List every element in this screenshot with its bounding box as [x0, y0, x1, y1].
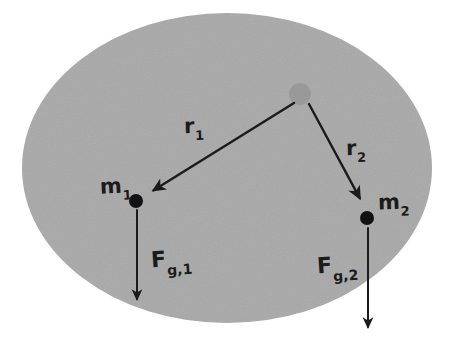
label-r2: r2 [346, 138, 367, 162]
gravity-diagram-svg [0, 0, 455, 346]
label-m1-sub: 1 [122, 187, 132, 202]
label-fg2: Fg,2 [316, 253, 358, 280]
body-ellipse [22, 13, 432, 323]
label-fg1: Fg,1 [150, 247, 192, 274]
label-m1-base: m [99, 174, 123, 199]
label-r2-base: r [346, 136, 358, 160]
label-m2-base: m [378, 190, 401, 215]
label-r1-base: r [184, 114, 196, 138]
label-r2-sub: 2 [357, 150, 367, 165]
label-m1: m1 [99, 175, 132, 200]
mass-point-m2 [360, 211, 374, 225]
label-r1-sub: 1 [195, 128, 205, 143]
label-fg2-sub: g,2 [333, 267, 359, 285]
center-of-mass-dot [289, 83, 311, 105]
label-fg1-sub: g,1 [167, 261, 193, 279]
label-r1: r1 [184, 116, 205, 140]
label-m2: m2 [378, 191, 410, 215]
diagram-canvas: m1 m2 r1 r2 Fg,1 Fg,2 [0, 0, 455, 346]
label-fg2-base: F [316, 252, 333, 278]
label-m2-sub: 2 [400, 204, 410, 219]
label-fg1-base: F [150, 246, 167, 272]
